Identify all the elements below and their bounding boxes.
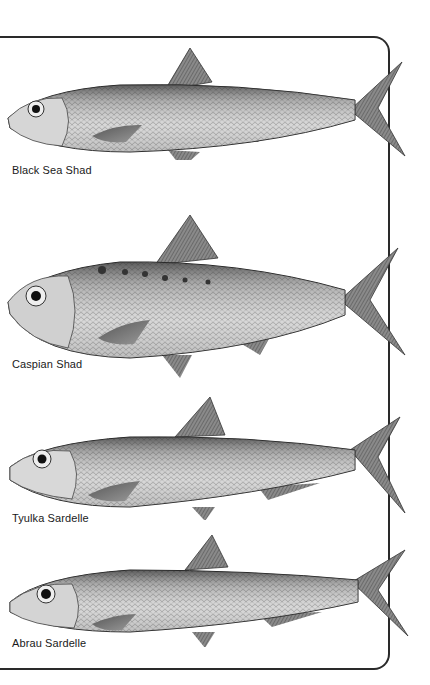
species-caption: Black Sea Shad	[12, 164, 92, 176]
species-caption: Abrau Sardelle	[12, 637, 86, 649]
species-caption: Caspian Shad	[12, 358, 82, 370]
fish-black-sea-shad	[0, 40, 430, 160]
fish-illustration-icon	[0, 210, 430, 380]
species-caption: Tyulka Sardelle	[12, 512, 89, 524]
fish-illustration-icon	[0, 395, 430, 520]
fish-illustration-icon	[0, 40, 430, 160]
fish-caspian-shad	[0, 210, 430, 380]
fish-tyulka-sardelle	[0, 395, 430, 520]
fish-illustration-icon	[0, 532, 430, 647]
fish-abrau-sardelle	[0, 532, 430, 647]
